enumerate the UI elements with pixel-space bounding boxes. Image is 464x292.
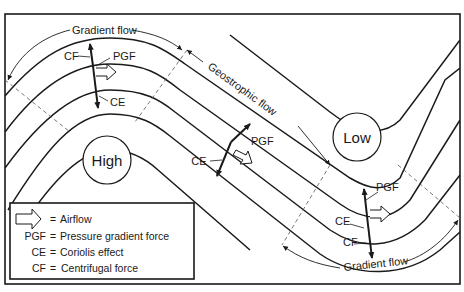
pgf-arrow-middle [231,124,250,142]
airflow-arrow-middle [233,150,252,164]
divider-left [5,80,70,132]
ce-arrow-middle [217,142,231,176]
legend: = Airflow PGF = Pressure gradient force … [10,203,194,279]
pgf-label-middle: PGF [251,135,274,147]
legend-eq-1: = [50,213,56,225]
legend-eq-2: = [50,230,56,242]
gradient-flow-bottom-bracket-left [283,246,340,268]
pgf-arrow-bottom [364,189,368,225]
gradient-flow-bottom-label: Gradient flow [343,254,409,273]
geostrophic-flow-label: Geostrophic flow [206,60,279,118]
cf-label-bottom: CF [343,236,358,248]
cf-arrow-top [90,44,93,66]
legend-cf-symbol: CF [32,262,46,274]
legend-pgf-text: Pressure gradient force [60,230,169,242]
gradient-flow-top-label: Gradient flow [72,24,137,36]
gradient-flow-top-bracket-left [8,30,70,80]
legend-eq-3: = [50,246,56,258]
middle-force-group [210,124,252,176]
legend-cf-text: Centrifugal force [61,262,138,274]
low-pressure-label: Low [343,129,371,146]
airflow-arrow-bottom [370,206,390,222]
divider-right [398,165,460,218]
legend-ce-text: Coriolis effect [60,246,123,258]
airflow-arrow-top [96,64,116,80]
geostrophic-bracket-left [187,50,203,62]
legend-pgf-symbol: PGF [24,230,46,242]
pgf-label-top: PGF [113,50,136,62]
cf-label-top: CF [64,50,79,62]
ce-label-bottom: CE [335,215,350,227]
cf-arrow-bottom [368,225,372,258]
ce-label-top: CE [110,96,125,108]
ce-label-middle: CE [191,155,206,167]
high-pressure-label: High [92,152,123,169]
divider-mid [282,165,330,245]
legend-eq-4: = [50,262,56,274]
pgf-label-bottom: PGF [376,181,399,193]
wind-flow-diagram: Gradient flow Geostrophic flow Gradient … [0,0,464,292]
legend-airflow-text: Airflow [60,213,92,225]
legend-ce-symbol: CE [31,246,46,258]
